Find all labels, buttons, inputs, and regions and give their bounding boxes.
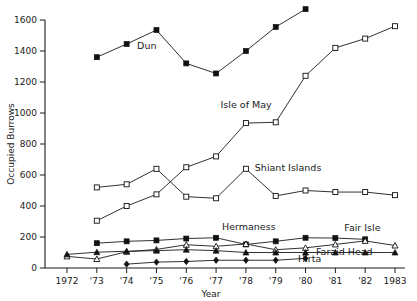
x-tick-label: '79 — [269, 276, 283, 286]
x-axis-title: Year — [200, 289, 220, 299]
data-point — [243, 166, 248, 171]
data-point — [94, 185, 99, 190]
series-polyline — [97, 238, 365, 245]
series-dun — [94, 7, 308, 76]
data-point — [124, 261, 129, 267]
data-point — [333, 236, 338, 241]
series-label-fair-isle: Fair Isle — [344, 222, 380, 233]
series-hirta — [124, 255, 308, 267]
series-label-dun: Dun — [137, 40, 156, 51]
data-point — [94, 55, 99, 60]
x-tick-label: '74 — [120, 276, 134, 286]
data-point — [184, 194, 189, 199]
series-label-hermaness: Hermaness — [222, 221, 276, 232]
x-tick-label: '78 — [239, 276, 253, 286]
y-tick-label: 1400 — [14, 46, 37, 56]
data-point — [154, 192, 159, 197]
data-point — [214, 235, 219, 240]
data-point — [184, 236, 189, 241]
y-tick-label: 0 — [31, 263, 37, 273]
data-point — [154, 238, 159, 243]
y-tick-label: 1200 — [14, 77, 37, 87]
x-tick-label: '80 — [299, 276, 313, 286]
data-point — [273, 239, 278, 244]
data-point — [303, 235, 308, 240]
data-point — [363, 190, 368, 195]
data-point — [273, 120, 278, 125]
data-point — [273, 193, 278, 198]
data-point — [243, 121, 248, 126]
series-shiant-islands — [94, 166, 397, 200]
y-tick-label: 1600 — [14, 15, 37, 25]
chart-canvas: 020040060080010001200140016001972'73'74'… — [0, 0, 417, 301]
data-point — [393, 193, 398, 198]
x-tick-label: 1972 — [56, 276, 79, 286]
series-polyline — [97, 169, 395, 198]
y-tick-label: 400 — [20, 201, 37, 211]
x-tick-label: '77 — [209, 276, 223, 286]
x-tick-label: '75 — [149, 276, 163, 286]
data-point — [154, 28, 159, 33]
data-point — [303, 188, 308, 193]
y-tick-label: 1000 — [14, 108, 37, 118]
chart-series-labels: DunIsle of MayShiant IslandsHermanessFai… — [137, 40, 381, 264]
y-tick-label: 800 — [20, 139, 37, 149]
data-point — [243, 49, 248, 54]
y-tick-label: 200 — [20, 232, 37, 242]
data-point — [243, 257, 248, 263]
y-axis-title: Occupied Burrows — [6, 103, 16, 185]
data-point — [273, 257, 278, 263]
data-point — [124, 239, 129, 244]
x-tick-label: '82 — [358, 276, 372, 286]
chart-axis-titles: YearOccupied Burrows — [6, 103, 221, 299]
x-tick-label: '81 — [328, 276, 342, 286]
data-point — [333, 45, 338, 50]
x-tick-label: '73 — [90, 276, 104, 286]
data-point — [154, 259, 159, 265]
data-point — [214, 71, 219, 76]
data-point — [333, 190, 338, 195]
data-point — [124, 204, 129, 209]
data-point — [154, 166, 159, 171]
series-label-isle-of-may: Isle of May — [221, 99, 272, 110]
y-tick-label: 600 — [20, 170, 37, 180]
data-point — [273, 24, 278, 29]
series-label-faraid-head: Faraid Head — [316, 246, 373, 257]
data-point — [124, 182, 129, 187]
data-point — [303, 7, 308, 12]
data-point — [393, 24, 398, 29]
data-point — [303, 73, 308, 78]
series-label-shiant-islands: Shiant Islands — [255, 162, 322, 173]
data-point — [184, 258, 189, 264]
burrows-line-chart: 020040060080010001200140016001972'73'74'… — [0, 0, 417, 301]
data-point — [184, 61, 189, 66]
data-point — [214, 257, 219, 263]
data-point — [214, 154, 219, 159]
x-tick-label: 1983 — [384, 276, 407, 286]
data-point — [184, 165, 189, 170]
data-point — [94, 218, 99, 223]
data-point — [124, 42, 129, 47]
data-point — [94, 241, 99, 246]
data-point — [363, 36, 368, 41]
series-label-hirta: Hirta — [298, 253, 321, 264]
data-point — [214, 196, 219, 201]
x-tick-label: '76 — [179, 276, 193, 286]
